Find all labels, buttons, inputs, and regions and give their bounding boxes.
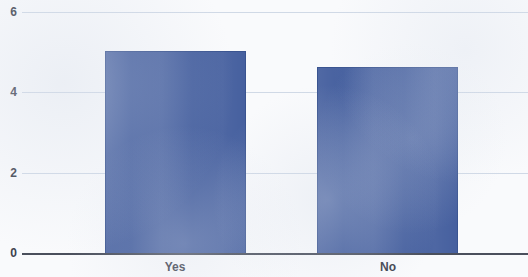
bar-yes[interactable] — [105, 51, 246, 254]
bar-yes-fill — [105, 51, 246, 254]
y-tick-label-0: 0 — [10, 246, 17, 260]
x-tick-label-yes: Yes — [165, 260, 186, 274]
y-tick-label-6: 6 — [10, 5, 17, 19]
bar-no-fill — [317, 67, 458, 254]
y-tick-label-2: 2 — [10, 166, 17, 180]
gridline-6 — [22, 12, 528, 13]
x-axis-line — [22, 253, 528, 255]
plot-area: 6 4 2 0 Yes No — [22, 0, 528, 254]
bar-no[interactable] — [317, 67, 458, 254]
x-tick-label-no: No — [380, 260, 396, 274]
bar-chart: 6 4 2 0 Yes No — [0, 0, 528, 277]
y-tick-label-4: 4 — [10, 85, 17, 99]
